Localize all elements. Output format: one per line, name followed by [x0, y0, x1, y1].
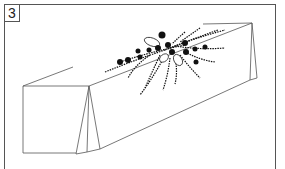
floral-arrangement-icon [105, 28, 225, 95]
table-drape-icon [23, 23, 257, 154]
draped-table-with-floral-arrangement-icon [0, 0, 285, 169]
